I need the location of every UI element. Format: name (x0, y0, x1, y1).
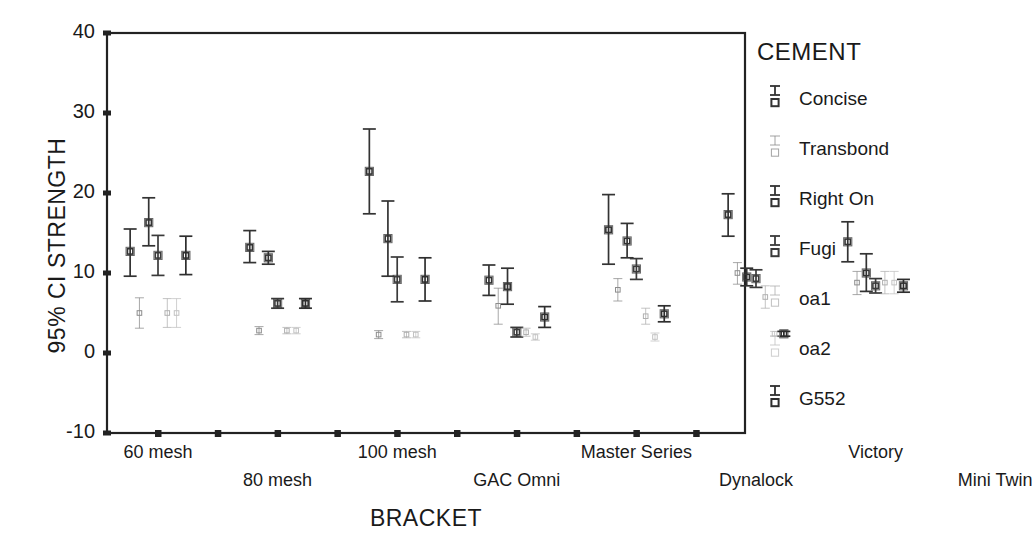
legend-marker-right-on (770, 186, 780, 206)
legend-marker-oa2 (770, 336, 780, 356)
legend-item-g552[interactable]: G552 (799, 388, 845, 410)
legend-markers-layer (770, 86, 780, 406)
x-tick-label: Mini Twin (915, 470, 1036, 491)
legend-marker-g552 (770, 386, 780, 406)
legend-marker-transbond (770, 136, 780, 156)
legend-marker-fugi (770, 236, 780, 256)
legend-item-right-on[interactable]: Right On (799, 188, 874, 210)
legend-item-transbond[interactable]: Transbond (799, 138, 889, 160)
legend-item-oa1[interactable]: oa1 (799, 288, 831, 310)
legend-item-fugi[interactable]: Fugi (799, 238, 836, 260)
legend-marker-concise (770, 86, 780, 106)
legend-item-concise[interactable]: Concise (799, 88, 868, 110)
legend-item-oa2[interactable]: oa2 (799, 338, 831, 360)
legend-marker-oa1 (770, 286, 780, 306)
legend-title: CEMENT (757, 38, 861, 66)
plot-frame (103, 31, 745, 438)
